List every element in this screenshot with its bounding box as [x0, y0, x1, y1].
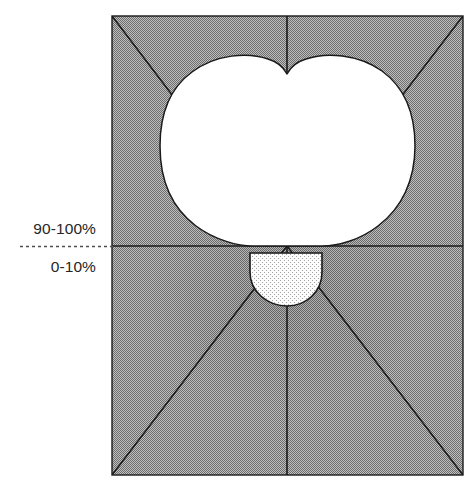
figure-root: 90-100% 0-10% [0, 0, 475, 496]
coverage-diagram: 90-100% 0-10% [0, 0, 475, 496]
label-low-coverage: 0-10% [51, 258, 96, 275]
high-coverage-region [160, 55, 415, 246]
label-high-coverage: 90-100% [33, 220, 96, 237]
